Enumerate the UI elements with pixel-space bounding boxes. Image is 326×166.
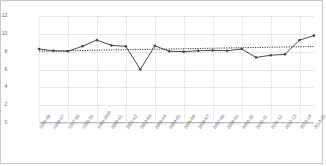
series-polyline [39,36,314,70]
data-series-line [39,16,314,123]
y-tick-label: 12 [0,13,7,18]
y-tick-label: 2 [0,102,7,107]
plot-area [39,16,314,123]
data-point-marker [197,49,200,52]
data-point-marker [269,54,272,57]
data-point-marker [284,53,287,56]
data-point-marker [182,50,185,53]
data-point-marker [96,39,99,42]
chart-container: 121086420 million ha 1995-961996-971997-… [0,0,323,164]
y-tick-label: 8 [0,49,7,54]
data-point-marker [38,48,41,51]
y-tick-label: 10 [0,31,7,36]
data-point-marker [125,45,128,48]
data-point-marker [110,44,113,47]
data-point-marker [211,49,214,52]
data-point-marker [313,34,316,37]
data-point-marker [298,39,301,42]
data-point-marker [153,45,156,48]
data-point-marker [81,45,84,48]
y-tick-label: 4 [0,84,7,89]
y-tick-label: 6 [0,67,7,72]
y-tick-label: 0 [0,120,7,125]
data-point-marker [139,68,142,71]
data-point-marker [255,56,258,59]
data-point-marker [226,49,229,52]
data-point-marker [168,50,171,53]
x-tick-label: 2014-15 [313,114,326,130]
